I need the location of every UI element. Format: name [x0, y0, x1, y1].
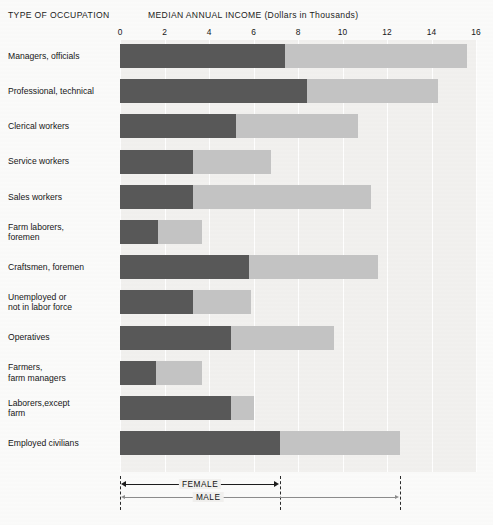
bar-segment-female[interactable]: [120, 255, 249, 279]
bar-segment-female[interactable]: [120, 290, 193, 314]
category-label: Unemployed or not in labor force: [8, 292, 120, 313]
bar-row[interactable]: [120, 150, 476, 174]
x-tick-label-16: 16: [471, 27, 480, 37]
bar-segment-female[interactable]: [120, 326, 231, 350]
category-label: Craftsmen, foremen: [8, 262, 120, 273]
x-tick-label-2: 2: [162, 27, 167, 37]
female-left-arrow-icon: [121, 481, 126, 487]
bar-segment-female[interactable]: [120, 361, 156, 385]
bar-row[interactable]: [120, 44, 476, 68]
category-label: Clerical workers: [8, 121, 120, 132]
bar-row[interactable]: [120, 431, 476, 455]
bar-segment-female[interactable]: [120, 44, 285, 68]
occupation-column-title: TYPE OF OCCUPATION: [8, 10, 109, 20]
bracket-tick-male-end: [400, 476, 401, 510]
bar-row[interactable]: [120, 361, 476, 385]
bar-segment-female[interactable]: [120, 185, 193, 209]
bar-segment-female[interactable]: [120, 396, 231, 420]
bar-row[interactable]: [120, 255, 476, 279]
bar-segment-female[interactable]: [120, 220, 158, 244]
x-tick-label-10: 10: [338, 27, 347, 37]
category-label: Employed civilians: [8, 438, 120, 449]
bracket-tick-female-end: [280, 476, 281, 510]
category-label: Farmers, farm managers: [8, 362, 120, 383]
bar-row[interactable]: [120, 396, 476, 420]
x-tick-label-0: 0: [118, 27, 123, 37]
bar-row[interactable]: [120, 220, 476, 244]
male-range-line: [125, 497, 395, 498]
plot-area: 0246810121416: [120, 40, 476, 472]
bar-segment-female[interactable]: [120, 431, 280, 455]
chart-root: TYPE OF OCCUPATION MEDIAN ANNUAL INCOME …: [0, 0, 493, 525]
x-tick-label-6: 6: [251, 27, 256, 37]
male-legend-label: MALE: [193, 492, 224, 502]
category-label: Professional, technical: [8, 86, 120, 97]
male-left-arrow-icon: [121, 495, 125, 499]
bar-row[interactable]: [120, 326, 476, 350]
category-label: Sales workers: [8, 192, 120, 203]
income-axis-title: MEDIAN ANNUAL INCOME (Dollars in Thousan…: [148, 10, 358, 20]
bar-segment-female[interactable]: [120, 114, 236, 138]
category-label: Farm laborers, foremen: [8, 222, 120, 243]
x-tick-label-14: 14: [427, 27, 436, 37]
gridline-16: [476, 40, 477, 472]
x-tick-label-12: 12: [382, 27, 391, 37]
bar-segment-female[interactable]: [120, 79, 307, 103]
category-label: Managers, officials: [8, 51, 120, 62]
category-label: Laborers,except farm: [8, 398, 120, 419]
bar-row[interactable]: [120, 290, 476, 314]
female-right-arrow-icon: [274, 481, 279, 487]
bar-row[interactable]: [120, 114, 476, 138]
category-label: Operatives: [8, 332, 120, 343]
x-tick-label-4: 4: [207, 27, 212, 37]
bar-row[interactable]: [120, 185, 476, 209]
male-right-arrow-icon: [395, 495, 399, 499]
legend: FEMALEMALE: [120, 474, 476, 520]
bar-segment-female[interactable]: [120, 150, 193, 174]
category-label: Service workers: [8, 156, 120, 167]
female-legend-label: FEMALE: [179, 479, 221, 489]
x-tick-label-8: 8: [296, 27, 301, 37]
bar-row[interactable]: [120, 79, 476, 103]
